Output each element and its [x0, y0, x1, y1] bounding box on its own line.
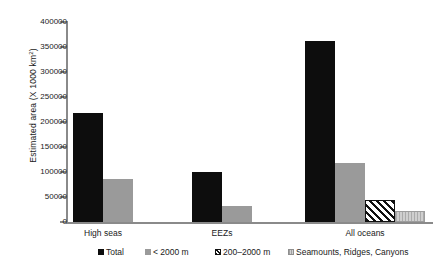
legend-label: Seamounts, Ridges, Canyons — [296, 247, 408, 257]
y-tick-label: 100000 — [21, 167, 67, 176]
bar — [395, 211, 425, 222]
y-tick-label: 0 — [21, 217, 67, 226]
legend-item: 200–2000 m — [215, 247, 270, 257]
bar — [103, 179, 133, 222]
legend-label: < 2000 m — [153, 247, 189, 257]
x-axis-label-all-oceans: All oceans — [283, 228, 437, 238]
legend-swatch-icon — [215, 249, 221, 255]
y-tick-label: 50000 — [21, 192, 67, 201]
bar — [305, 41, 335, 222]
legend-item: Total — [98, 247, 124, 257]
y-tick-label: 200000 — [21, 117, 67, 126]
bar — [335, 163, 365, 222]
y-tick-label: 350000 — [21, 42, 67, 51]
y-tick-label: 400000 — [21, 17, 67, 26]
x-axis-label-eezs: EEZs — [170, 228, 274, 238]
y-axis-title-exponent: 2 — [28, 51, 34, 55]
y-tick-label: 250000 — [21, 92, 67, 101]
chart-legend: Total< 2000 m200–2000 mSeamounts, Ridges… — [0, 247, 437, 261]
legend-swatch-icon — [288, 249, 294, 255]
bar — [192, 172, 222, 222]
legend-swatch-icon — [145, 249, 151, 255]
bar-chart: Estimated area (X 1000 km2) 050000100000… — [0, 0, 437, 270]
legend-label: 200–2000 m — [223, 247, 270, 257]
x-axis-line — [66, 222, 433, 224]
y-tick-label: 300000 — [21, 67, 67, 76]
bar — [222, 206, 252, 222]
y-tick-label: 150000 — [21, 142, 67, 151]
legend-swatch-icon — [98, 249, 104, 255]
bar — [73, 113, 103, 222]
bar — [365, 200, 395, 222]
legend-item: Seamounts, Ridges, Canyons — [288, 247, 408, 257]
legend-item: < 2000 m — [145, 247, 189, 257]
legend-label: Total — [106, 247, 124, 257]
x-axis-label-high-seas: High seas — [51, 228, 155, 238]
